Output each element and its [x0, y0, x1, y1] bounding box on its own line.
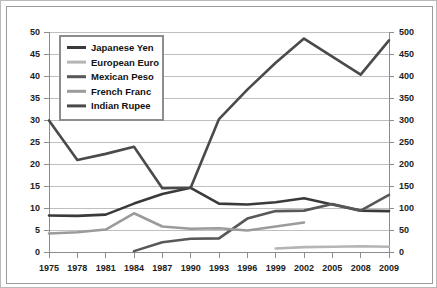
- y-tick-label-left: 15: [30, 181, 40, 191]
- x-tick-label: 1999: [266, 263, 286, 273]
- x-tick-label: 1975: [39, 263, 59, 273]
- y-tick-label-right: 400: [399, 71, 414, 81]
- legend-label-european-euro[interactable]: European Euro: [91, 57, 159, 68]
- x-tick-label: 2008: [351, 263, 371, 273]
- y-tick-label-right: 0: [399, 247, 404, 257]
- line-chart: 05101520253035404550 0501001502002503003…: [7, 7, 432, 283]
- x-tick-label: 1987: [152, 263, 172, 273]
- y-tick-label-left: 0: [35, 247, 40, 257]
- y-tick-label-left: 5: [35, 225, 40, 235]
- y-axis-right-labels: 050100150200250300350400450500: [399, 27, 414, 257]
- legend-label-japanese-yen[interactable]: Japanese Yen: [91, 42, 154, 53]
- x-axis-labels: 1975197819811984198719901993199619992002…: [39, 263, 399, 273]
- y-tick-label-left: 30: [30, 115, 40, 125]
- x-tick-label: 1984: [124, 263, 144, 273]
- legend-label-indian-rupee[interactable]: Indian Rupee: [91, 100, 151, 111]
- y-tick-label-left: 35: [30, 93, 40, 103]
- legend-label-french-franc[interactable]: French Franc: [91, 86, 151, 97]
- y-tick-label-left: 50: [30, 27, 40, 37]
- y-tick-label-left: 40: [30, 71, 40, 81]
- y-tick-label-right: 150: [399, 181, 414, 191]
- y-tick-label-left: 10: [30, 203, 40, 213]
- series-line-european-euro: [276, 246, 389, 248]
- y-tick-label-right: 50: [399, 225, 409, 235]
- y-axis-left-labels: 05101520253035404550: [30, 27, 40, 257]
- y-tick-label-right: 200: [399, 159, 414, 169]
- x-tick-label: 2009: [379, 263, 399, 273]
- chart-panel: 05101520253035404550 0501001502002503003…: [6, 6, 433, 284]
- y-tick-label-left: 45: [30, 49, 40, 59]
- y-tick-label-right: 300: [399, 115, 414, 125]
- y-tick-label-right: 500: [399, 27, 414, 37]
- y-tick-label-right: 450: [399, 49, 414, 59]
- x-tick-label: 1981: [96, 263, 116, 273]
- chart-legend[interactable]: Japanese YenEuropean EuroMexican PesoFre…: [60, 36, 163, 120]
- y-tick-label-right: 100: [399, 203, 414, 213]
- x-tick-label: 2002: [294, 263, 314, 273]
- y-tick-label-left: 25: [30, 137, 40, 147]
- legend-label-mexican-peso[interactable]: Mexican Peso: [91, 71, 154, 82]
- x-tick-label: 1993: [209, 263, 229, 273]
- y-tick-label-right: 250: [399, 137, 414, 147]
- y-tick-label-right: 350: [399, 93, 414, 103]
- x-tick-label: 1978: [67, 263, 87, 273]
- x-tick-label: 2005: [322, 263, 342, 273]
- y-tick-label-left: 20: [30, 159, 40, 169]
- chart-screenshot: 05101520253035404550 0501001502002503003…: [0, 0, 437, 288]
- x-tick-label: 1990: [181, 263, 201, 273]
- series-line-japanese-yen: [49, 188, 389, 216]
- x-tick-label: 1996: [237, 263, 257, 273]
